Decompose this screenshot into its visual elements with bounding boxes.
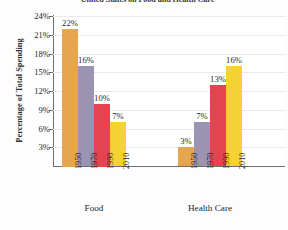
x-tick-label: 1990: [222, 139, 231, 169]
x-tick-label: 1950: [190, 139, 199, 169]
gridline: [53, 16, 285, 17]
bar-value-label: 16%: [219, 55, 249, 65]
gridline: [53, 35, 285, 36]
y-tick-label: 3%: [16, 142, 50, 152]
x-tick-label: 1970: [206, 139, 215, 169]
x-tick-label: 2010: [122, 139, 131, 169]
x-axis-line: [53, 166, 285, 167]
bar-value-label: 22%: [55, 18, 85, 28]
y-tick-label: 9%: [16, 105, 50, 115]
x-tick-label: 1950: [74, 139, 83, 169]
y-tick-label: 6%: [16, 124, 50, 134]
y-tick-label: 15%: [16, 67, 50, 77]
x-tick-label: 2010: [238, 139, 247, 169]
chart-title: United States on Food and Health Care: [40, 0, 255, 5]
y-tick-label: 24%: [16, 11, 50, 21]
x-tick-label: 1970: [90, 139, 99, 169]
x-group-label: Food: [42, 203, 146, 213]
bar-value-label: 10%: [87, 93, 117, 103]
chart-figure: United States on Food and Health Care Pe…: [0, 0, 288, 230]
x-tick-label: 1990: [106, 139, 115, 169]
y-tick-label: 21%: [16, 30, 50, 40]
x-group-label: Health Care: [158, 203, 262, 213]
bar-value-label: 16%: [71, 55, 101, 65]
bar-value-label: 7%: [103, 111, 133, 121]
y-tick-label: 12%: [16, 86, 50, 96]
y-tick-label: 18%: [16, 49, 50, 59]
